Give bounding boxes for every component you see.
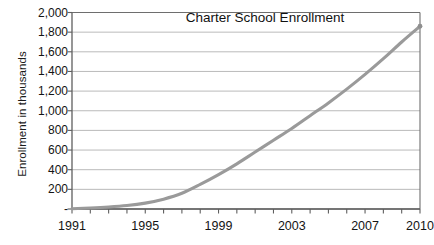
chart-container: Enrollment in thousands 2,0001,8001,6001… <box>0 0 434 245</box>
plot-area <box>0 0 434 245</box>
data-line <box>72 26 420 208</box>
data-point-marker <box>418 24 423 29</box>
chart-title: Charter School Enrollment <box>150 10 380 25</box>
